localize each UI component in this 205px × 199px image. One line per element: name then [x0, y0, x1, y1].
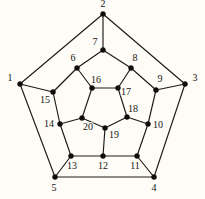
vertex-label-17: 17: [121, 86, 131, 97]
graph-edge-10-18: [127, 117, 148, 124]
graph-edge-18-19: [105, 117, 127, 128]
vertex-label-6: 6: [71, 52, 76, 63]
graph-edge-7-8: [103, 50, 131, 68]
graph-vertex-15: [51, 90, 56, 95]
graph-canvas: 1234567891011121314151617181920: [0, 0, 205, 199]
vertex-label-4: 4: [152, 182, 157, 193]
graph-edge-8-9: [131, 68, 156, 90]
vertex-label-11: 11: [130, 160, 140, 171]
vertex-label-14: 14: [44, 118, 54, 129]
graph-vertex-4: [152, 175, 157, 180]
vertex-label-7: 7: [93, 36, 98, 47]
graph-vertex-10: [146, 122, 151, 127]
graph-edge-3-4: [154, 84, 185, 177]
graph-edge-10-11: [137, 124, 148, 156]
graph-edge-14-20: [60, 118, 82, 124]
vertex-label-12: 12: [98, 160, 108, 171]
graph-edge-12-19: [103, 128, 105, 156]
graph-edge-15-6: [53, 68, 77, 92]
graph-vertex-11: [135, 154, 140, 159]
graph-vertex-13: [69, 154, 74, 159]
graph-vertex-19: [103, 126, 108, 131]
vertex-label-10: 10: [153, 119, 163, 130]
graph-vertex-20: [80, 116, 85, 121]
graph-vertex-2: [101, 12, 106, 17]
vertex-label-18: 18: [128, 103, 138, 114]
graph-edge-20-16: [82, 88, 92, 118]
graph-vertex-7: [101, 48, 106, 53]
graph-vertex-16: [90, 86, 95, 91]
vertex-label-5: 5: [52, 182, 57, 193]
graph-vertex-18: [125, 115, 130, 120]
vertex-label-15: 15: [40, 94, 50, 105]
graph-edge-14-15: [53, 92, 60, 124]
dodecahedron-graph-figure: 1234567891011121314151617181920: [0, 0, 205, 199]
vertex-label-20: 20: [83, 121, 93, 132]
graph-vertex-17: [116, 86, 121, 91]
graph-vertex-6: [75, 66, 80, 71]
vertex-label-16: 16: [91, 74, 101, 85]
graph-vertex-3: [183, 82, 188, 87]
vertex-label-8: 8: [133, 52, 138, 63]
graph-edge-13-14: [60, 124, 71, 156]
graph-edge-6-16: [77, 68, 92, 88]
graph-vertex-12: [101, 154, 106, 159]
graph-edge-2-3: [103, 14, 185, 84]
vertex-label-2: 2: [101, 0, 106, 9]
graph-edge-6-7: [77, 50, 103, 68]
graph-vertex-1: [18, 82, 23, 87]
graph-edge-1-15: [20, 84, 53, 92]
vertex-label-1: 1: [8, 72, 13, 83]
graph-vertex-14: [58, 122, 63, 127]
vertex-label-13: 13: [67, 160, 77, 171]
graph-edge-8-17: [118, 68, 131, 88]
vertex-label-19: 19: [109, 129, 119, 140]
graph-vertex-5: [53, 175, 58, 180]
vertex-label-9: 9: [158, 73, 163, 84]
vertex-label-3: 3: [193, 72, 198, 83]
graph-vertex-9: [154, 88, 159, 93]
graph-edge-3-9: [156, 84, 185, 90]
graph-vertex-8: [129, 66, 134, 71]
